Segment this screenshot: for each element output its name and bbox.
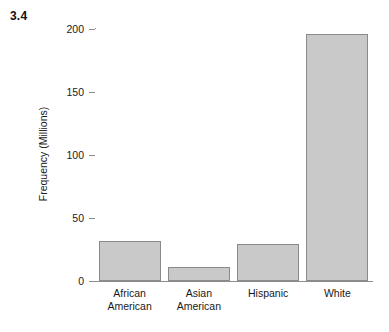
- x-axis-label-white: White: [303, 287, 372, 300]
- plot-area: [95, 29, 372, 281]
- y-axis-tick-label-text: 100: [50, 149, 84, 161]
- bar-african-american: [99, 241, 161, 281]
- x-axis-label-line: White: [303, 287, 372, 300]
- y-axis-tick-label-text: 50: [50, 212, 84, 224]
- y-axis-tick-label-text: 0: [50, 275, 84, 287]
- bar-chart: Frequency (Millions) 050100150200 Africa…: [0, 0, 389, 332]
- y-axis-tick-label: 200: [50, 23, 84, 35]
- y-axis-tick-label: 100: [50, 149, 84, 161]
- y-axis-tick-label-text: 200: [50, 23, 84, 35]
- y-axis-tick-label-text: 150: [50, 86, 84, 98]
- y-axis-tick-label: 50: [50, 212, 84, 224]
- bar-asian-american: [168, 267, 230, 281]
- y-axis-tick: [89, 281, 95, 282]
- x-axis-line: [95, 281, 373, 282]
- x-axis-label-hispanic: Hispanic: [234, 287, 303, 300]
- y-axis-tick-label: 0: [50, 275, 84, 287]
- x-axis-label-line: Hispanic: [234, 287, 303, 300]
- x-axis-label-line: Asian: [164, 287, 233, 300]
- y-axis-title: Frequency (Millions): [37, 94, 49, 214]
- x-axis-label-line: American: [95, 300, 164, 313]
- y-axis-tick-label: 150: [50, 86, 84, 98]
- x-axis-label-line: American: [164, 300, 233, 313]
- x-axis-label-african-american: AfricanAmerican: [95, 287, 164, 313]
- bar-white: [306, 34, 368, 281]
- x-axis-label-line: African: [95, 287, 164, 300]
- x-axis-label-asian-american: AsianAmerican: [164, 287, 233, 313]
- bar-hispanic: [237, 244, 299, 281]
